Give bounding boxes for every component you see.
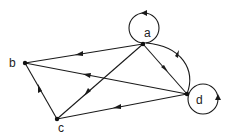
node-a <box>141 42 145 46</box>
graph-canvas: a b c d <box>0 0 233 138</box>
arrow-d-b <box>83 73 91 78</box>
node-label-c: c <box>58 121 64 135</box>
node-b <box>23 61 27 65</box>
directed-graph: a b c d <box>0 0 233 138</box>
arrow-a-a <box>141 10 147 16</box>
node-d <box>185 92 189 96</box>
arrow-d-d <box>215 94 221 100</box>
edge-d-d <box>188 84 218 114</box>
node-label-b: b <box>9 56 16 70</box>
arrow-d-a <box>175 50 179 58</box>
edge-d-a <box>146 43 190 94</box>
edge-d-c <box>57 94 187 119</box>
node-label-a: a <box>144 26 151 40</box>
node-label-d: d <box>196 93 203 107</box>
arrow-a-c <box>84 88 91 96</box>
